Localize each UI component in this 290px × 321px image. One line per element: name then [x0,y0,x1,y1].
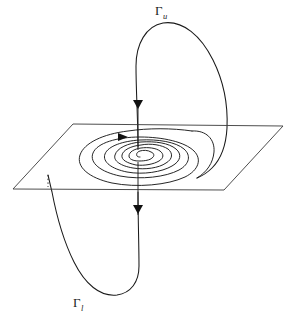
label-gamma-upper: Γu [155,4,167,20]
figure-container: Γu Γl [0,0,290,321]
invariant-plane [13,124,283,190]
label-gamma-lower-subscript: l [81,303,83,313]
spiral-arrow [118,133,128,141]
figure-canvas [0,0,290,321]
label-gamma-upper-symbol: Γ [155,3,163,18]
label-gamma-lower-symbol: Γ [73,295,81,310]
spiral-entry-sweep [192,131,214,178]
planar-spiral [79,129,198,186]
axis-arrow-upper [133,100,143,109]
label-gamma-lower: Γl [73,296,83,312]
lower-loop-curve [48,175,139,295]
axis-arrow-lower [133,205,143,214]
label-gamma-upper-subscript: u [163,11,167,21]
